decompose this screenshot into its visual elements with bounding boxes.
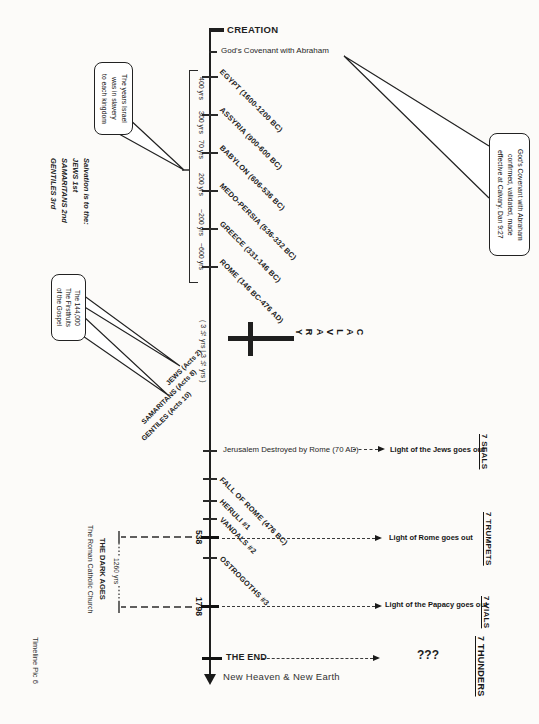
slavery-callout: The years Israelwas in slaveryto each ki…	[94, 62, 133, 135]
covenant-confirmed-callout: God's Covenant with Abrahamconfirmed, va…	[489, 133, 530, 256]
firstfruits-callout: The 144,000The Firstfruitsof the Gospel	[51, 274, 86, 341]
callout-line: effective at Calvary. Dan 9:27	[495, 149, 505, 241]
callout-line: God's Covenant with Abraham	[515, 149, 525, 241]
callout-line: was in slavery	[109, 74, 119, 124]
callout-line: The years Israel	[119, 74, 129, 124]
callout-line: The 144,000	[73, 288, 82, 327]
callout-line: The Firstfruits	[64, 288, 73, 327]
slavery-callout-text: The years Israelwas in slaveryto each ki…	[99, 74, 129, 124]
callout-line: confirmed, validated, made	[505, 149, 515, 241]
callout-line: to each kingdom	[99, 74, 109, 124]
firstfruits-callout-text: The 144,000The Firstfruitsof the Gospel	[55, 288, 82, 327]
pointer-svg	[0, 0, 539, 724]
timeline-page: CREATION God's Covenant with Abraham ( 3…	[0, 0, 539, 724]
callout-line: of the Gospel	[55, 288, 64, 327]
covenant-confirmed-text: God's Covenant with Abrahamconfirmed, va…	[495, 149, 525, 241]
